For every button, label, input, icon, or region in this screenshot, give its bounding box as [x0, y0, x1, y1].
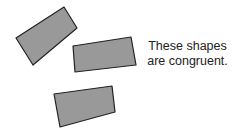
caption-line-1: These shapes [140, 39, 235, 54]
quadrilateral-3 [54, 86, 115, 127]
quadrilateral-2 [73, 37, 136, 72]
quadrilateral-1 [16, 7, 77, 65]
caption: These shapes are congruent. [140, 39, 235, 69]
caption-line-2: are congruent. [140, 54, 235, 69]
